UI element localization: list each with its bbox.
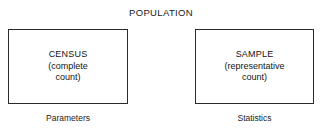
census-subtitle-line-1: (complete	[48, 61, 88, 73]
census-heading: CENSUS	[48, 49, 88, 61]
census-subtitle-line-2: count)	[48, 72, 88, 84]
sample-box-text: SAMPLE (representative count)	[220, 49, 288, 84]
sample-subtitle-line-2: count)	[224, 72, 284, 84]
sample-box: SAMPLE (representative count)	[195, 29, 314, 104]
census-box-text: CENSUS (complete count)	[44, 49, 92, 84]
sample-subtitle-line-1: (representative	[224, 61, 284, 73]
census-box: CENSUS (complete count)	[8, 29, 128, 104]
population-diagram: POPULATION CENSUS (complete count) SAMPL…	[0, 0, 322, 130]
diagram-title: POPULATION	[0, 7, 322, 18]
census-caption-parameters: Parameters	[8, 113, 128, 123]
sample-caption-statistics: Statistics	[195, 113, 314, 123]
sample-heading: SAMPLE	[224, 49, 284, 61]
